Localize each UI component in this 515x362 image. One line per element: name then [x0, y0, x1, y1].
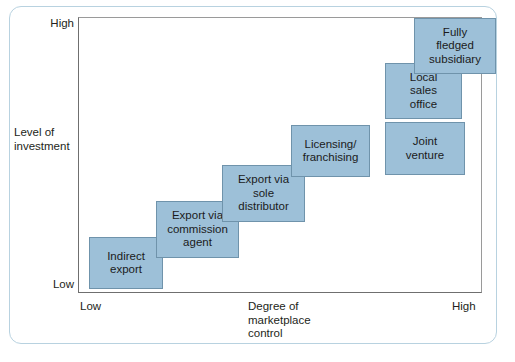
y-axis-low-label: Low — [28, 278, 74, 292]
entry-mode-box-fully-fledged-subsidiary: Fully fledged subsidiary — [414, 18, 496, 74]
market-entry-staircase-figure: High Low Level of investment Low Degree … — [0, 0, 515, 362]
entry-mode-box-licensing-franchising: Licensing/ franchising — [291, 125, 370, 177]
x-axis-low-label: Low — [80, 300, 101, 314]
x-axis-title: Degree of marketplace control — [248, 300, 368, 341]
entry-mode-box-indirect-export: Indirect export — [89, 237, 163, 289]
entry-mode-box-joint-venture: Joint venture — [385, 122, 465, 175]
y-axis-title: Level of investment — [14, 126, 76, 153]
y-axis-high-label: High — [28, 17, 74, 31]
x-axis-high-label: High — [452, 300, 476, 314]
